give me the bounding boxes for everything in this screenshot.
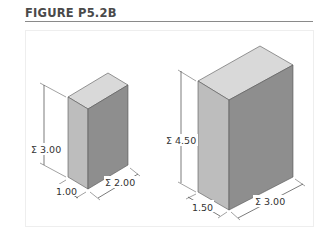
large-width-ext-left: [231, 212, 240, 220]
large-box: Σ 4.50 1.50 Σ 3.00: [166, 46, 305, 220]
small-height-ext-bottom: [40, 163, 66, 177]
large-width-label: Σ 3.00: [255, 196, 285, 207]
small-width-ext-left: [90, 192, 100, 200]
large-depth-ext-right: [218, 212, 227, 218]
large-height-ext-bottom: [178, 182, 196, 192]
large-depth-label: 1.50: [192, 202, 213, 213]
small-box: Σ 3.00 1.00 Σ 2.00: [30, 73, 140, 200]
small-box-left-face: [68, 97, 88, 189]
large-height-label: Σ 4.50: [166, 135, 196, 146]
large-box-left-face: [198, 81, 229, 210]
small-width-label: Σ 2.00: [105, 177, 135, 188]
small-depth-label: 1.00: [56, 186, 77, 197]
small-height-label: Σ 3.00: [31, 144, 61, 155]
small-width-ext-right: [130, 168, 140, 176]
isometric-diagram: Σ 3.00 1.00 Σ 2.00 Σ 4.50 1.50: [0, 0, 326, 239]
large-depth-ext-left: [186, 194, 196, 199]
large-width-ext-right: [295, 179, 305, 186]
